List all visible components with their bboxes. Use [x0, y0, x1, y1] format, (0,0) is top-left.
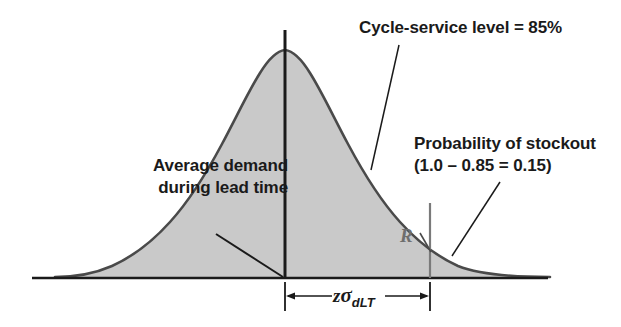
stockout-label-line2: (1.0 – 0.85 = 0.15)	[414, 155, 596, 177]
reorder-point-label: R	[400, 225, 413, 247]
dimension-arrowhead-right	[420, 293, 429, 300]
cycle-service-leader-line	[371, 45, 399, 170]
stockout-label-line1: Probability of stockout	[414, 133, 596, 155]
z-sigma-dimension-label: zσdLT	[333, 283, 375, 310]
stockout-probability-label: Probability of stockout (1.0 – 0.85 = 0.…	[414, 133, 596, 177]
dlt-subscript: dLT	[352, 295, 375, 310]
average-demand-label: Average demand during lead time	[140, 155, 288, 199]
dimension-arrowhead-left	[286, 293, 295, 300]
normal-distribution-figure: Cycle-service level = 85% Probability of…	[0, 0, 621, 327]
stockout-leader-line	[452, 182, 500, 256]
cycle-service-level-label: Cycle-service level = 85%	[359, 17, 562, 39]
sigma-symbol: σ	[340, 283, 351, 307]
